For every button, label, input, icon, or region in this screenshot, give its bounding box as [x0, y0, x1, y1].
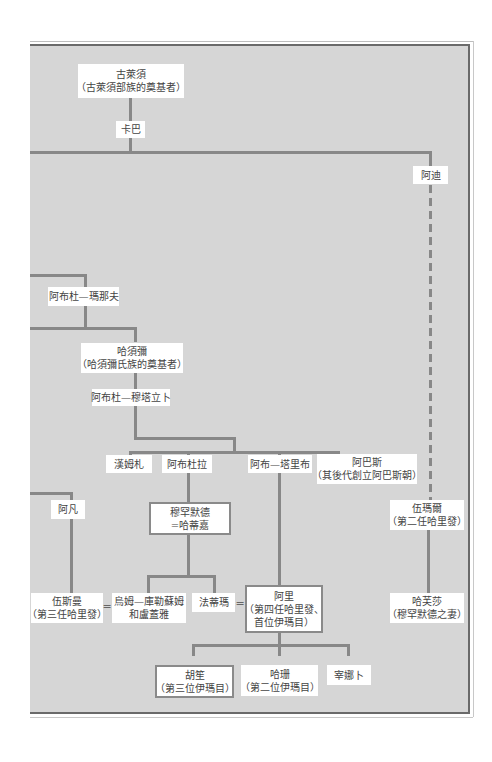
- line-to-umm-kulthum: [147, 575, 150, 593]
- line-abdullah-muhammad: [187, 472, 190, 503]
- node-name: 阿布杜拉: [167, 458, 207, 471]
- node-note: （古萊須部族的奠基者）: [76, 81, 186, 94]
- line-abu-talib-ali: [278, 472, 281, 586]
- node-name: 哈珊: [270, 668, 290, 681]
- line-generation-sons: [129, 451, 340, 454]
- node-hamza: 漢姆札: [106, 455, 152, 473]
- node-note: （第二任哈里發）: [387, 515, 467, 528]
- line-hashim-down: [134, 327, 137, 342]
- line-to-hasan: [278, 644, 281, 656]
- line-to-abd-manaf: [30, 274, 87, 277]
- line-muhammad-daughters: [147, 575, 216, 578]
- node-muhammad: 穆罕默德 =哈蒂嘉: [149, 502, 231, 535]
- node-husayn: 胡笙 （第三位伊瑪目）: [155, 665, 234, 698]
- node-ali: 阿里 （第四任哈里發、 首位伊瑪目）: [245, 585, 323, 633]
- node-note: （第三任哈里發）: [27, 608, 107, 621]
- node-qusayy: 古萊須 （古萊須部族的奠基者）: [78, 64, 184, 98]
- node-name: 阿迪: [421, 169, 441, 182]
- node-name: 阿布杜—穆塔立卜: [91, 391, 171, 404]
- node-abd-muttalib: 阿布杜—穆塔立卜: [92, 389, 170, 406]
- node-name: 阿里: [274, 590, 294, 603]
- node-note: （哈須彌氏族的奠基者）: [77, 358, 187, 371]
- node-name: 伍瑪爾: [412, 502, 442, 515]
- node-name: 哈芙莎: [412, 595, 442, 608]
- line-to-zaynab: [347, 644, 350, 656]
- line-umar-hafsa: [427, 528, 430, 594]
- node-note: 首位伊瑪目）: [254, 616, 314, 629]
- node-zaynab: 宰娜卜: [327, 665, 371, 685]
- node-note: （其後代創立阿巴斯朝）: [312, 469, 422, 482]
- node-name: 法蒂瑪: [199, 596, 229, 609]
- line-generation-kaba: [30, 151, 432, 154]
- line-muhammad-down: [187, 534, 190, 577]
- line-to-hashim: [30, 327, 137, 330]
- line-affan-uthman: [70, 518, 73, 593]
- node-note: =哈蒂嘉: [171, 519, 209, 532]
- frame-bottom-line: [30, 717, 473, 718]
- node-affan: 阿凡: [51, 500, 85, 519]
- node-umm-kulthum: 烏姆—庫勒蘇姆 和盧蓋雅: [112, 593, 186, 623]
- node-abdullah: 阿布杜拉: [162, 455, 212, 473]
- line-to-fatima: [213, 575, 216, 593]
- frame-right-line: [473, 41, 474, 717]
- node-name: 卡巴: [121, 123, 141, 136]
- node-uthman: 伍斯曼 （第三任哈里發）: [31, 593, 103, 623]
- node-name: 阿巴斯: [352, 456, 382, 469]
- node-hafsa: 哈芙莎 （穆罕默德之妻）: [390, 593, 464, 623]
- node-hashim: 哈須彌 （哈須彌氏族的奠基者）: [81, 343, 183, 373]
- node-abd-manaf: 阿布杜—瑪那夫: [48, 287, 119, 306]
- line-muttalib-down: [134, 404, 137, 440]
- node-note: 和盧蓋雅: [129, 608, 169, 621]
- node-name: 阿布杜—瑪那夫: [49, 290, 119, 303]
- node-name: 漢姆札: [114, 458, 144, 471]
- node-name: 哈須彌: [117, 345, 147, 358]
- line-adi-umar-dashed: [429, 185, 432, 510]
- node-name: 胡笙: [185, 669, 205, 682]
- node-adi: 阿迪: [413, 166, 448, 184]
- node-note: （第二位伊瑪目）: [240, 681, 320, 694]
- line-ali-children: [192, 644, 350, 647]
- node-name: 伍斯曼: [52, 595, 82, 608]
- node-name: 阿布—塔里布: [250, 458, 310, 471]
- frame-top-line: [30, 41, 473, 42]
- node-note: （第四任哈里發、: [244, 603, 324, 616]
- node-note: （穆罕默德之妻）: [387, 608, 467, 621]
- marriage-symbol: =: [102, 600, 112, 613]
- node-umar: 伍瑪爾 （第二任哈里發）: [390, 500, 464, 530]
- line-muttalib-mid: [134, 437, 236, 440]
- node-note: （第三位伊瑪目）: [155, 682, 235, 695]
- node-abu-talib: 阿布—塔里布: [248, 455, 312, 473]
- line-to-affan: [30, 492, 73, 495]
- node-hasan: 哈珊 （第二位伊瑪目）: [241, 665, 318, 696]
- node-fatima: 法蒂瑪: [192, 593, 235, 612]
- node-name: 宰娜卜: [334, 669, 364, 682]
- line-to-husayn: [192, 644, 195, 656]
- node-name: 烏姆—庫勒蘇姆: [114, 595, 184, 608]
- node-name: 穆罕默德: [170, 506, 210, 519]
- node-name: 古萊須: [116, 68, 146, 81]
- node-name: 阿凡: [58, 503, 78, 516]
- node-abbas: 阿巴斯 （其後代創立阿巴斯朝）: [317, 454, 417, 484]
- node-kaba: 卡巴: [116, 121, 145, 138]
